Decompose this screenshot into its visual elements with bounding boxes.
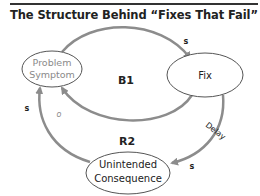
- problem-symptom-line2: Symptom: [29, 69, 75, 80]
- polarity-consequence-to-symptom: s: [25, 104, 30, 113]
- arrow-consequence-to-symptom: [39, 88, 90, 162]
- consequence-line1: Unintended: [99, 159, 157, 170]
- arrow-symptom-to-fix: [62, 27, 190, 58]
- delay-label: Delay: [204, 120, 228, 141]
- node-fix: Fix: [167, 53, 243, 97]
- node-unintended-consequence: Unintended Consequence: [86, 152, 170, 194]
- arrow-fix-to-symptom: [62, 88, 192, 120]
- loop-label-b1: B1: [118, 74, 134, 87]
- polarity-symptom-to-fix: s: [184, 37, 189, 46]
- consequence-line2: Consequence: [94, 173, 162, 184]
- node-problem-symptom: Problem Symptom: [22, 51, 82, 87]
- causal-loop-diagram: Problem Symptom Fix Unintended Consequen…: [0, 0, 260, 196]
- polarity-fix-to-symptom: o: [57, 110, 62, 119]
- fix-label: Fix: [198, 70, 212, 81]
- problem-symptom-line1: Problem: [33, 57, 72, 68]
- loop-label-r2: R2: [119, 135, 135, 148]
- polarity-fix-to-consequence: s: [190, 162, 195, 171]
